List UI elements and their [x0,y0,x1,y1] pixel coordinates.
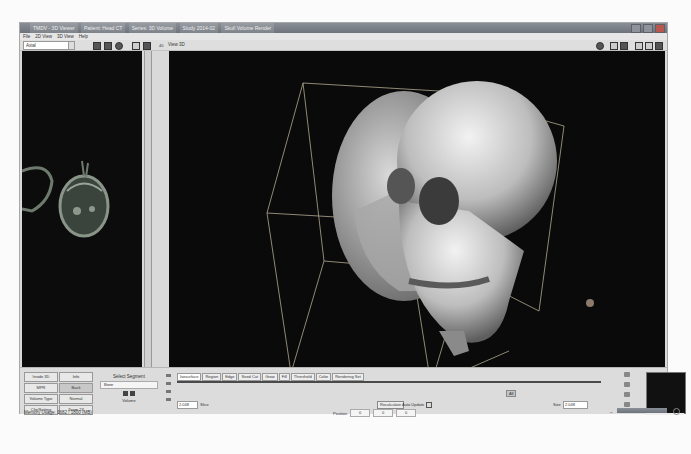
toolbar: Axial 40 View 3D [20,40,667,51]
segment-add-icon[interactable] [123,391,128,396]
tool-icon-column [624,372,630,407]
tab-rendering-set[interactable]: Rendering Set [332,373,364,381]
chevron-down-icon [68,42,74,49]
inside-3d-button[interactable]: Inside 3D [24,372,58,382]
camera-icon[interactable] [596,42,604,50]
eraser-icon[interactable] [624,392,630,397]
info-button[interactable]: Info [59,372,93,382]
side-icon-column [166,374,171,401]
tab-color[interactable]: Color [316,373,332,381]
grid-icon[interactable] [610,42,618,50]
control-panel: Inside 3D Info MPR Back Volume Type Norm… [20,367,667,414]
rotate-icon[interactable] [620,42,628,50]
tool-tabs: Isosurface Region Edge Seed Cut Grow Fil… [177,373,364,381]
title-segment: Study 2014-02 [180,23,219,33]
tab-edge[interactable]: Edge [222,373,237,381]
mode-button-grid: Inside 3D Info MPR Back Volume Type Norm… [24,372,93,415]
auto-update-checkbox[interactable] [426,402,432,408]
value-field[interactable]: 2.048 [177,401,198,409]
position-y[interactable]: 0 [373,409,393,417]
layout-3-icon[interactable] [655,42,663,50]
print-icon[interactable] [104,42,112,50]
menu-bar: File 2D View 3D View Help [20,33,667,40]
arrow-icon[interactable] [166,382,171,385]
person-icon[interactable] [624,372,630,377]
size-label: Size [553,402,561,407]
memory-status: Memory Usage: 1682 / 1800 (MB) [24,410,92,415]
segment-remove-icon[interactable] [130,391,135,396]
3d-render-view[interactable] [169,51,665,367]
size-field[interactable]: 2.048 [563,401,588,409]
fullscreen-icon[interactable] [143,42,151,50]
threshold-slider[interactable] [177,381,601,383]
layout-2-icon[interactable] [645,42,653,50]
zoom-slider[interactable] [617,408,667,413]
menu-2d-view[interactable]: 2D View [35,33,52,40]
position-z[interactable]: 0 [396,409,416,417]
pencil-icon[interactable] [624,382,630,387]
window-icon[interactable] [132,42,140,50]
layout-1-icon[interactable] [635,42,643,50]
zoom-in-icon[interactable] [673,408,680,415]
normal-button[interactable]: Normal [59,394,93,404]
segment-title: Select Segment [100,374,158,379]
title-segment: Series: 3D Volume [129,23,176,33]
all-button[interactable]: All [506,390,516,397]
tab-seed-cut[interactable]: Seed Cut [238,373,261,381]
record-icon[interactable] [115,42,123,50]
skull-3d-render [169,51,665,367]
position-label: Position [333,411,347,416]
tab-region[interactable]: Region [202,373,221,381]
menu-file[interactable]: File [23,33,30,40]
auto-update[interactable]: Auto Update [402,402,432,408]
window-controls [631,24,665,33]
segment-section: Select Segment Bone Volume [100,374,158,403]
axial-ct-image [22,51,142,367]
unit-label: Slice [200,402,209,407]
menu-help[interactable]: Help [79,33,88,40]
layout-combo[interactable]: Axial [23,41,75,50]
arrow-icon[interactable] [166,398,171,401]
auto-update-label: Auto Update [402,402,424,407]
tab-threshold[interactable]: Threshold [291,373,315,381]
title-segment: TMDV - 3D Viewer [30,23,78,33]
title-segment: Skull Volume Render [221,23,274,33]
view-label: View 3D [168,42,185,47]
segment-volume-label: Volume [100,398,158,403]
zoom-out-icon[interactable]: − [610,409,613,415]
move-icon[interactable] [624,402,630,407]
left-zoom-value: 40 [159,43,163,48]
tab-grow[interactable]: Grow [262,373,278,381]
arrow-icon[interactable] [166,390,171,393]
recalculate-button[interactable]: Recalculate [377,401,404,409]
position-x[interactable]: 0 [350,409,370,417]
app-window: TMDV - 3D Viewer Patient: Head CT Series… [19,22,668,414]
mpr-button[interactable]: MPR [24,383,58,393]
position-fields: Position 0 0 0 [333,409,416,417]
tab-fill[interactable]: Fill [279,373,290,381]
close-button[interactable] [655,24,665,33]
save-icon[interactable] [93,42,101,50]
minimize-button[interactable] [631,24,641,33]
title-bar: TMDV - 3D Viewer Patient: Head CT Series… [20,23,667,33]
panel-splitter[interactable] [144,51,152,367]
menu-3d-view[interactable]: 3D View [57,33,74,40]
title-segment: Patient: Head CT [81,23,125,33]
layout-combo-value: Axial [26,43,36,48]
volume-type-button[interactable]: Volume Type [24,394,58,404]
segment-input[interactable]: Bone [100,381,158,389]
axial-slice-view[interactable] [22,51,142,367]
arrow-icon[interactable] [166,374,171,377]
tab-isosurface[interactable]: Isosurface [177,373,201,381]
maximize-button[interactable] [643,24,653,33]
back-button[interactable]: Back [59,383,93,393]
